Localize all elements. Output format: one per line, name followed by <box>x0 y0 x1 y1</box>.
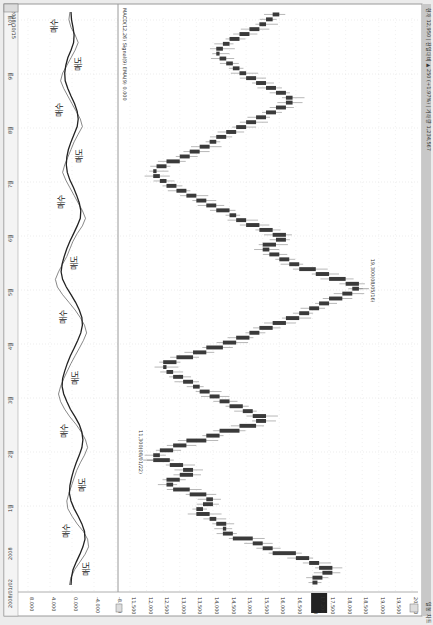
candle-body[interactable] <box>170 463 183 467</box>
candle-body[interactable] <box>180 155 190 159</box>
candle-body[interactable] <box>210 517 217 521</box>
candle-body[interactable] <box>193 350 206 354</box>
candle-body[interactable] <box>286 101 293 105</box>
candle-body[interactable] <box>276 106 286 110</box>
candle-body[interactable] <box>346 282 359 286</box>
candle-body[interactable] <box>259 228 272 232</box>
candle-body[interactable] <box>233 66 240 70</box>
candle-body[interactable] <box>157 164 167 168</box>
candle-body[interactable] <box>342 292 352 296</box>
candle-body[interactable] <box>259 326 272 330</box>
candle-body[interactable] <box>230 404 243 408</box>
candle-body[interactable] <box>253 541 263 545</box>
candle-body[interactable] <box>210 140 217 144</box>
candle-body[interactable] <box>286 96 293 100</box>
candle-body[interactable] <box>246 223 259 227</box>
candle-body[interactable] <box>319 301 329 305</box>
candle-body[interactable] <box>236 218 246 222</box>
chart-canvas[interactable]: 현재 12,950 | 전일대비 ▲ 250 (+1.97%) | 거래량 1,… <box>0 0 433 625</box>
candle-body[interactable] <box>183 380 193 384</box>
candle-body[interactable] <box>266 17 273 21</box>
candle-body[interactable] <box>309 306 319 310</box>
candle-body[interactable] <box>230 37 240 41</box>
candle-body[interactable] <box>216 208 229 212</box>
candle-body[interactable] <box>190 492 207 496</box>
candle-body[interactable] <box>273 12 280 16</box>
candle-body[interactable] <box>273 233 286 237</box>
candle-body[interactable] <box>312 581 317 585</box>
candle-body[interactable] <box>263 248 270 252</box>
candle-body[interactable] <box>276 238 286 242</box>
candle-body[interactable] <box>186 194 196 198</box>
candle-body[interactable] <box>286 316 299 320</box>
candle-body[interactable] <box>263 546 273 550</box>
candle-body[interactable] <box>223 532 233 536</box>
candle-body[interactable] <box>160 179 167 183</box>
candle-body[interactable] <box>180 473 193 477</box>
candle-body[interactable] <box>173 488 190 492</box>
candle-body[interactable] <box>166 159 179 163</box>
candle-body[interactable] <box>243 409 253 413</box>
candle-body[interactable] <box>249 331 259 335</box>
candle-body[interactable] <box>216 47 223 51</box>
candle-body[interactable] <box>256 81 266 85</box>
candle-body[interactable] <box>216 135 226 139</box>
candle-body[interactable] <box>223 527 226 531</box>
candle-body[interactable] <box>216 522 226 526</box>
candle-body[interactable] <box>186 439 206 443</box>
candle-body[interactable] <box>220 399 230 403</box>
candle-body[interactable] <box>200 145 210 149</box>
candle-body[interactable] <box>322 571 332 575</box>
candle-body[interactable] <box>216 52 219 56</box>
candle-body[interactable] <box>160 448 173 452</box>
candle-body[interactable] <box>183 468 193 472</box>
candle-body[interactable] <box>196 507 203 511</box>
candle-body[interactable] <box>206 434 219 438</box>
candle-body[interactable] <box>259 22 266 26</box>
candle-body[interactable] <box>236 125 246 129</box>
candle-body[interactable] <box>223 42 230 46</box>
pane-toggle-button[interactable] <box>116 604 122 612</box>
candle-body[interactable] <box>266 110 276 114</box>
candle-body[interactable] <box>312 576 322 580</box>
candle-body[interactable] <box>153 169 156 173</box>
candle-body[interactable] <box>163 365 166 369</box>
candle-body[interactable] <box>299 267 316 271</box>
candle-body[interactable] <box>329 297 342 301</box>
candle-body[interactable] <box>153 458 170 462</box>
candle-body[interactable] <box>166 483 173 487</box>
candle-body[interactable] <box>176 355 193 359</box>
expand-button[interactable] <box>4 4 18 12</box>
candle-body[interactable] <box>153 174 160 178</box>
candle-body[interactable] <box>276 91 286 95</box>
candle-body[interactable] <box>246 76 256 80</box>
candle-body[interactable] <box>309 561 319 565</box>
candle-body[interactable] <box>249 27 259 31</box>
candle-body[interactable] <box>153 453 160 457</box>
candle-body[interactable] <box>256 115 266 119</box>
candle-body[interactable] <box>269 252 279 256</box>
candle-body[interactable] <box>223 341 236 345</box>
candle-body[interactable] <box>316 272 329 276</box>
candle-body[interactable] <box>203 502 213 506</box>
candle-body[interactable] <box>220 57 227 61</box>
candle-body[interactable] <box>256 419 266 423</box>
candle-body[interactable] <box>226 130 236 134</box>
candle-body[interactable] <box>230 213 237 217</box>
candle-body[interactable] <box>289 262 299 266</box>
candle-body[interactable] <box>239 424 256 428</box>
candle-body[interactable] <box>352 287 359 291</box>
candle-body[interactable] <box>193 385 200 389</box>
candle-body[interactable] <box>173 443 186 447</box>
candle-body[interactable] <box>166 370 173 374</box>
candle-body[interactable] <box>206 497 213 501</box>
candle-body[interactable] <box>266 86 276 90</box>
candle-body[interactable] <box>253 414 266 418</box>
candle-body[interactable] <box>329 277 346 281</box>
candle-body[interactable] <box>319 566 332 570</box>
candle-body[interactable] <box>206 203 216 207</box>
candle-body[interactable] <box>176 189 186 193</box>
candle-body[interactable] <box>206 346 223 350</box>
zoom-button[interactable] <box>410 604 418 612</box>
candle-body[interactable] <box>173 375 183 379</box>
